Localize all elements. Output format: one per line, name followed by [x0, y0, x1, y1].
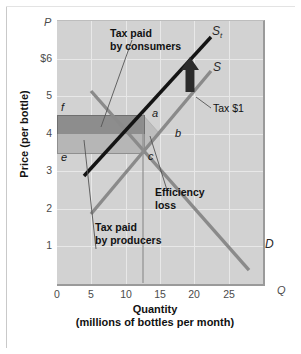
x-axis-title-main: Quantity: [133, 303, 178, 315]
y-axis-letter: P: [44, 16, 51, 28]
supply-after-tax-label-sub: t: [220, 31, 222, 40]
x-tick-25: 25: [217, 288, 241, 300]
y-tick-2: 2: [22, 202, 52, 214]
annotation-producers-line2: by producers: [95, 234, 162, 246]
x-tick-10: 10: [114, 288, 138, 300]
demand-label: D: [265, 237, 274, 251]
annotation-consumers-line2: by consumers: [110, 40, 181, 52]
y-tick-6: $6: [22, 52, 52, 64]
x-tick-20: 20: [182, 288, 206, 300]
figure-container: P Q $6 5 4 3 2 1 0 5 10 15 20 25 Price (…: [0, 0, 301, 354]
supply-label: S: [213, 60, 221, 74]
annotation-efficiency-line1: Efficiency: [155, 186, 205, 198]
supply-after-tax-label-main: S: [212, 24, 220, 38]
point-label-a: a: [152, 107, 158, 119]
annotation-efficiency-line2: loss: [155, 199, 176, 211]
x-tick-15: 15: [148, 288, 172, 300]
y-tick-1: 1: [22, 239, 52, 251]
annotation-tax-paid-by-consumers: Tax paid by consumers: [110, 27, 181, 52]
point-label-f: f: [61, 101, 64, 113]
x-axis-letter: Q: [277, 284, 286, 296]
annotation-tax-paid-by-producers: Tax paid by producers: [95, 221, 162, 246]
annotation-consumers-line1: Tax paid: [110, 27, 152, 39]
point-label-e: e: [61, 151, 67, 163]
supply-after-tax-label: St: [212, 24, 222, 40]
point-label-c: c: [148, 150, 154, 162]
x-axis-title: Quantity (millions of bottles per month): [40, 303, 270, 329]
point-label-b: b: [175, 127, 181, 139]
annotation-producers-line1: Tax paid: [95, 221, 137, 233]
leader-tax-consumers: [101, 40, 132, 127]
annotation-efficiency-loss: Efficiency loss: [155, 186, 205, 211]
x-tick-0: 0: [45, 288, 69, 300]
leader-tax-amount: [196, 97, 211, 108]
annotation-tax-amount: Tax $1: [213, 102, 244, 115]
y-axis-title: Price (per bottle): [18, 74, 30, 194]
x-tick-5: 5: [79, 288, 103, 300]
x-axis-title-sub: (millions of bottles per month): [76, 316, 234, 328]
